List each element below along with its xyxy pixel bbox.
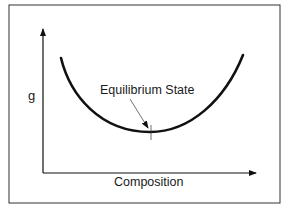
x-axis-label: Composition [114, 175, 183, 189]
equilibrium-annotation: Equilibrium State [100, 83, 195, 97]
y-axis-label: g [28, 88, 35, 103]
leader-line [130, 99, 148, 128]
